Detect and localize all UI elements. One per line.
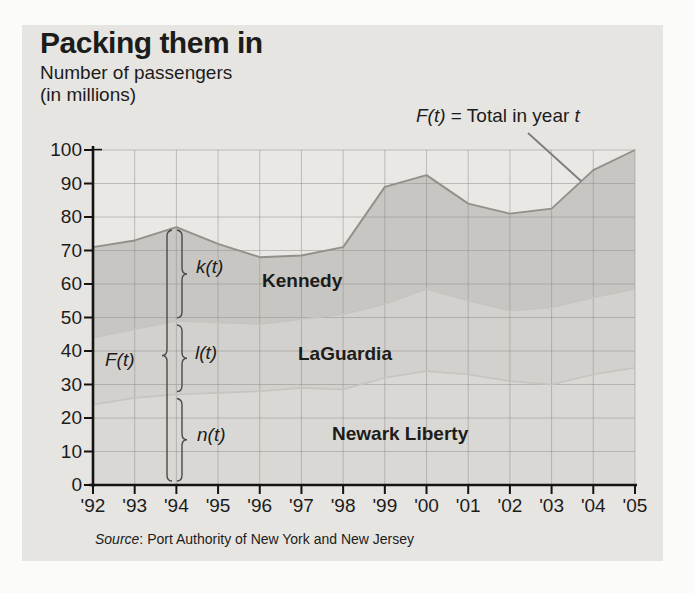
y-axis-title-line2: (in millions): [40, 84, 136, 106]
y-tick-label: 90: [24, 173, 82, 195]
total-annotation-fx: F(t): [416, 105, 446, 126]
y-tick-label: 80: [24, 206, 82, 228]
page-background: Packing them in Number of passengers (in…: [0, 0, 694, 593]
total-annotation-t: t: [575, 105, 580, 126]
source-rest: : Port Authority of New York and New Jer…: [139, 531, 414, 547]
total-annotation: F(t) = Total in year t: [416, 105, 580, 127]
x-tick-label: '05: [611, 495, 659, 517]
chart-title: Packing them in: [40, 26, 263, 60]
y-tick-label: 20: [24, 407, 82, 429]
airport-label-laguardia: LaGuardia: [298, 343, 392, 365]
y-tick-label: 100: [24, 139, 82, 161]
func-label-k: k(t): [196, 256, 223, 278]
airport-label-kennedy: Kennedy: [262, 270, 342, 292]
y-tick-label: 40: [24, 340, 82, 362]
source-word: Source: [95, 531, 139, 547]
y-tick-label: 60: [24, 273, 82, 295]
y-tick-label: 70: [24, 240, 82, 262]
y-tick-label: 0: [24, 474, 82, 496]
y-tick-label: 10: [24, 441, 82, 463]
total-annotation-eq: = Total in year: [446, 105, 575, 126]
source-note: Source: Port Authority of New York and N…: [95, 531, 414, 547]
func-label-l: l(t): [195, 342, 217, 364]
y-axis-title-line1: Number of passengers: [40, 62, 232, 84]
func-label-n: n(t): [197, 424, 226, 446]
y-tick-label: 30: [24, 374, 82, 396]
func-label-F-total: F(t): [105, 349, 135, 371]
y-tick-label: 50: [24, 307, 82, 329]
airport-label-newark-liberty: Newark Liberty: [332, 423, 468, 445]
